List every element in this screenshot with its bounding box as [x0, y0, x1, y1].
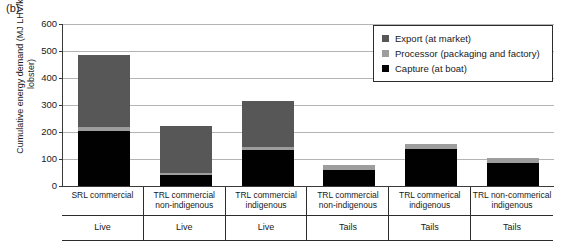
category-axis-label-line: indigenous: [471, 200, 553, 210]
product-form-label: Live: [62, 222, 143, 232]
y-axis-title: Cumulative energy demand (MJ LHV/kg lobs…: [15, 0, 43, 154]
bar-segment[interactable]: [405, 149, 457, 186]
category-axis-cell: TRL non-commericalindigenousTails: [471, 187, 553, 241]
bar-segment[interactable]: [323, 165, 375, 170]
bar-segment[interactable]: [160, 126, 212, 173]
product-form-label: Tails: [471, 222, 553, 232]
category-axis-label: TRL commercialnon-indigenous: [144, 190, 225, 210]
bar-segment[interactable]: [78, 55, 130, 127]
bar-segment[interactable]: [487, 163, 539, 186]
legend-item[interactable]: Export (at market): [382, 31, 546, 46]
y-axis-tick-mark: [59, 24, 63, 25]
gridline: [63, 132, 554, 133]
bar-group[interactable]: [487, 158, 539, 186]
bar-group[interactable]: [242, 101, 294, 186]
category-axis-label: TRL non-commericalindigenous: [471, 190, 553, 210]
category-axis-label-line: TRL commercial: [226, 190, 307, 200]
bar-segment[interactable]: [78, 131, 130, 186]
product-form-label: Live: [144, 222, 225, 232]
y-axis-tick-mark: [59, 105, 63, 106]
y-axis-tick-mark: [59, 132, 63, 133]
bar-group[interactable]: [160, 126, 212, 186]
y-axis-tick-label: 300: [41, 100, 57, 110]
category-axis-label-line: non-indigenous: [308, 200, 389, 210]
category-axis-label-line: SRL commercial: [62, 190, 143, 200]
bar-segment[interactable]: [323, 170, 375, 186]
y-axis-tick-mark: [59, 159, 63, 160]
y-axis-tick-mark: [59, 78, 63, 79]
legend-swatch-icon: [382, 50, 389, 57]
category-axis-cell: TRL commericalindigenousTails: [389, 187, 471, 241]
y-axis-tick-label: 0: [52, 181, 57, 191]
legend-item-label: Export (at market): [395, 33, 471, 44]
category-axis-cell: TRL commercialnon-indigenousTails: [308, 187, 390, 241]
category-axis-label-line: non-indigenous: [144, 200, 225, 210]
bar-segment[interactable]: [242, 150, 294, 186]
category-axis-label: TRL commercialnon-indigenous: [308, 190, 389, 210]
bar-group[interactable]: [323, 165, 375, 186]
bar-segment[interactable]: [78, 127, 130, 131]
bar-group[interactable]: [405, 144, 457, 186]
category-axis-label-line: TRL commercial: [308, 190, 389, 200]
category-axis: SRL commercialLiveTRL commercialnon-indi…: [62, 187, 553, 241]
legend-item-label: Processor (packaging and factory): [395, 48, 540, 59]
category-axis-label-line: indigenous: [389, 200, 470, 210]
bar-segment[interactable]: [405, 144, 457, 149]
legend-swatch-icon: [382, 35, 389, 42]
category-axis-cell: SRL commercialLive: [62, 187, 144, 241]
bar-group[interactable]: [78, 55, 130, 186]
y-axis-tick-mark: [59, 51, 63, 52]
category-axis-cell: TRL commercialindigenousLive: [226, 187, 308, 241]
gridline: [63, 105, 554, 106]
category-axis-label: TRL commericalindigenous: [389, 190, 470, 210]
bar-segment[interactable]: [160, 173, 212, 175]
gridline: [63, 159, 554, 160]
category-axis-divider: [62, 215, 553, 216]
legend-item-label: Capture (at boat): [395, 63, 467, 74]
category-axis-label: SRL commercial: [62, 190, 143, 200]
bar-segment[interactable]: [242, 101, 294, 147]
bar-segment[interactable]: [487, 158, 539, 163]
category-axis-label: TRL commercialindigenous: [226, 190, 307, 210]
product-form-label: Tails: [308, 222, 389, 232]
legend-item[interactable]: Capture (at boat): [382, 61, 546, 76]
category-axis-label-line: TRL commerical: [389, 190, 470, 200]
figure-panel-b: (b) Cumulative energy demand (MJ LHV/kg …: [0, 0, 575, 241]
category-axis-cell: TRL commercialnon-indigenousLive: [144, 187, 226, 241]
legend-swatch-icon: [382, 65, 389, 72]
category-axis-label-line: TRL non-commerical: [471, 190, 553, 200]
legend: Export (at market)Processor (packaging a…: [373, 25, 553, 82]
category-axis-label-line: indigenous: [226, 200, 307, 210]
product-form-label: Tails: [389, 222, 470, 232]
bar-segment[interactable]: [160, 175, 212, 186]
category-axis-label-line: TRL commercial: [144, 190, 225, 200]
y-axis-tick-label: 400: [41, 73, 57, 83]
legend-item[interactable]: Processor (packaging and factory): [382, 46, 546, 61]
y-axis-tick-label: 500: [41, 46, 57, 56]
y-axis-tick-label: 200: [41, 127, 57, 137]
bar-segment[interactable]: [242, 147, 294, 150]
product-form-label: Live: [226, 222, 307, 232]
y-axis-tick-label: 100: [41, 154, 57, 164]
y-axis-tick-label: 600: [41, 19, 57, 29]
